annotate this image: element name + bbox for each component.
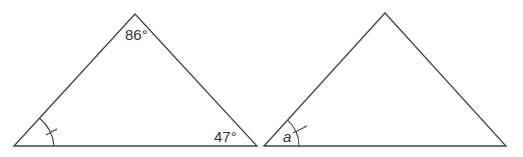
triangle-left: 86° 47° [14,14,257,146]
angle-label-a: a [283,128,291,145]
triangle-right-outline [264,13,506,146]
angle-label-top: 86° [125,26,148,43]
triangle-right: a [264,13,506,146]
angle-label-bottom-right: 47° [214,128,237,145]
diagram-canvas: 86° 47° a [0,0,523,157]
